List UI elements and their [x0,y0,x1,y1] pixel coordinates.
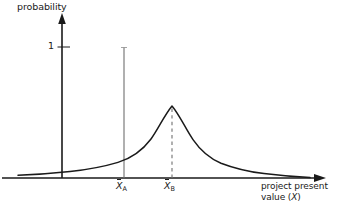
y-tick-label-1: 1 [48,40,54,51]
mean-a-label: XA [116,180,127,193]
x-axis-title-line1: project present [261,181,328,192]
mean-b-label: XB [164,180,175,193]
probability-distribution-figure: probability 1 XA XB project present valu… [0,0,340,214]
x-axis-title: project present value (X) [261,181,328,202]
mean-a-symbol: X [116,180,123,191]
mean-b-symbol: X [164,180,171,191]
y-axis-title: probability [17,1,67,12]
mean-a-subscript: A [123,185,127,193]
y-axis [58,13,66,178]
mean-a-marker-line [121,47,127,178]
x-axis-title-suffix: ) [297,192,300,202]
x-axis-title-prefix: value ( [261,192,291,202]
x-axis-title-line2: value (X) [261,192,328,203]
mean-b-subscript: B [171,185,175,193]
